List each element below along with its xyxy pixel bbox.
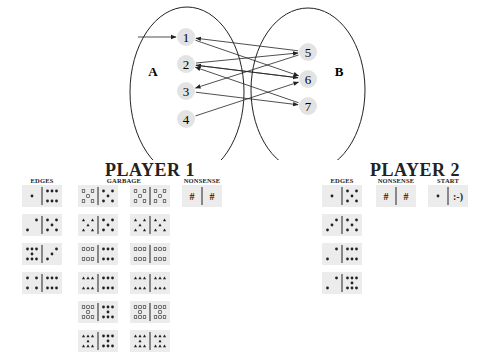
player1-garbage-domino [78,185,118,207]
player1-garbage-domino [130,243,170,265]
svg-text:#: # [404,191,409,202]
player1-garbage-domino [78,330,118,352]
edge-7-2 [195,67,298,102]
player2-edge-domino [322,243,362,265]
svg-text:#: # [384,191,389,202]
player2-edges-header: EDGES [322,177,362,184]
player1-edge-domino [22,185,62,207]
node-label-1: 1 [183,30,190,45]
player1-nonsense-header: NONSENSE [180,177,224,184]
svg-text:#: # [210,191,215,202]
edges-layer [138,37,299,116]
player2-nonsense-header: NONSENSE [374,177,418,184]
player1-garbage-domino [130,301,170,323]
player1-garbage-domino [78,214,118,236]
edge-5-3 [196,55,299,88]
player1-edge-domino [22,214,62,236]
player1-garbage-domino [130,272,170,294]
player1-garbage-domino [130,214,170,236]
node-label-3: 3 [183,84,190,99]
node-label-7: 7 [305,99,312,114]
nodes-layer: 1234567 [177,28,317,128]
node-label-6: 6 [305,72,312,87]
player1-edge-domino [22,272,62,294]
player1-edge-domino [22,243,62,265]
player1-garbage-domino [78,301,118,323]
player2-edge-domino [322,185,362,207]
player2-nonsense-domino: ## [376,185,416,207]
edge-4-6 [196,82,299,116]
player2-start-domino: :-) [428,185,468,207]
node-label-4: 4 [183,112,190,127]
player1-garbage-domino [130,330,170,352]
edge-3-7 [196,92,298,105]
player2-edge-domino [322,214,362,236]
player1-garbage-domino [78,272,118,294]
bipartite-graph: A B 1234567 [0,0,488,160]
player2-edge-domino [322,272,362,294]
edge-2-5 [196,53,298,63]
set-a-label: A [148,64,158,79]
player1-nonsense-domino: ## [182,185,222,207]
edge-5-1 [196,38,298,51]
set-b-label: B [335,64,344,79]
player1-edges-header: EDGES [22,177,62,184]
player2-start-header: START [428,177,468,184]
node-label-5: 5 [305,45,312,60]
player1-garbage-domino [130,185,170,207]
svg-text::-): :-) [453,191,463,203]
player1-garbage-domino [78,243,118,265]
player1-garbage-header: GARBAGE [78,177,170,184]
node-label-2: 2 [183,57,190,72]
svg-text:#: # [190,191,195,202]
